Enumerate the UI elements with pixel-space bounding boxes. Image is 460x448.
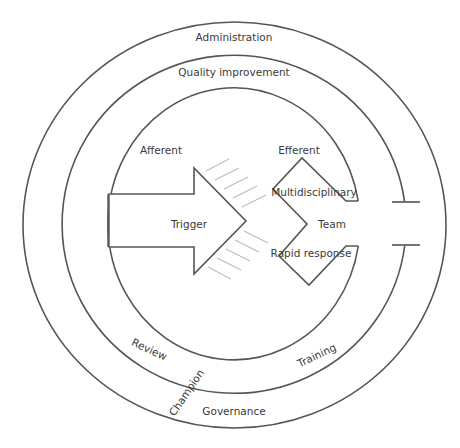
afferent-label: Afferent (140, 144, 182, 156)
team-label: Team (317, 218, 346, 230)
review-label: Review (130, 336, 169, 363)
rapid-response-label: Rapid response (271, 247, 352, 259)
multidisciplinary-label: Multidisciplinary (271, 186, 357, 198)
rapid-response-system-diagram: Administration Quality improvement Affer… (0, 0, 460, 448)
administration-label: Administration (196, 31, 273, 43)
champion-label: Champion (166, 367, 206, 418)
governance-label: Governance (202, 405, 265, 417)
trigger-label: Trigger (170, 218, 208, 230)
training-label: Training (294, 341, 338, 370)
efferent-label: Efferent (278, 144, 320, 156)
quality-improvement-label: Quality improvement (178, 66, 289, 78)
